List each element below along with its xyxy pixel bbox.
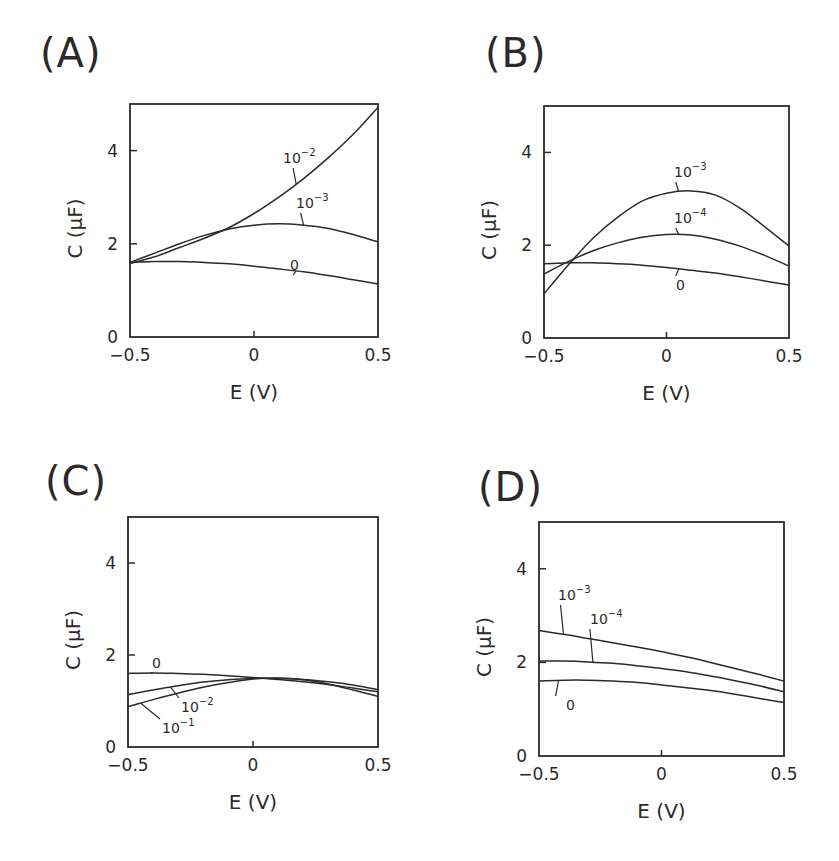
curve-10-neg3: [539, 631, 784, 682]
x-axis-title: E (V): [229, 790, 277, 814]
curve-label-leader: [676, 269, 679, 276]
curve-10-neg1: [128, 678, 378, 707]
curve-label-leader: [301, 213, 304, 225]
x-tick-label: 0.5: [364, 755, 391, 775]
plot-frame: [128, 517, 378, 747]
chart-panel-a: 024−0.500.5E (V)C (μF)10−210−30: [63, 104, 392, 404]
x-tick-label: 0.5: [775, 346, 802, 366]
y-tick-label: 0: [107, 327, 118, 347]
chart-panel-d: 024−0.500.5E (V)C (μF)10−310−40: [472, 522, 798, 823]
y-tick-label: 0: [105, 737, 116, 757]
x-axis-title: E (V): [230, 380, 278, 404]
y-tick-label: 2: [521, 235, 532, 255]
curve-label: 10−1: [162, 717, 195, 736]
curve-label: 0: [290, 257, 299, 273]
y-tick-label: 4: [521, 142, 532, 162]
chart-panel-c: 024−0.500.5E (V)C (μF)010−210−1: [61, 517, 392, 814]
curve-10-neg4: [539, 661, 784, 692]
y-axis-title: C (μF): [472, 617, 496, 677]
plot-frame: [539, 522, 784, 756]
curve-label-leader: [676, 182, 679, 192]
curve-label-leader: [561, 605, 564, 634]
curve-10-neg3: [130, 224, 378, 263]
curve-10-neg2: [130, 107, 378, 263]
x-tick-label: 0: [661, 346, 672, 366]
y-tick-label: 2: [516, 652, 527, 672]
curve-label-leader: [293, 168, 296, 184]
curve-label-leader: [141, 703, 161, 719]
curve-label: 10−4: [590, 608, 623, 627]
x-tick-label: −0.5: [109, 345, 150, 365]
curve-label: 10−3: [558, 584, 591, 603]
plot-frame: [130, 104, 378, 337]
y-tick-label: 2: [107, 234, 118, 254]
curve-0: [128, 673, 378, 692]
x-axis-title: E (V): [642, 381, 690, 405]
chart-panel-b: 024−0.500.5E (V)C (μF)10−310−40: [477, 106, 803, 405]
x-tick-label: −0.5: [518, 764, 559, 784]
y-tick-label: 4: [107, 141, 118, 161]
curve-label: 0: [566, 697, 575, 713]
x-tick-label: 0: [249, 345, 260, 365]
curve-label: 10−2: [181, 696, 214, 715]
y-axis-title: C (μF): [61, 610, 85, 670]
curve-label-leader: [590, 629, 593, 662]
y-tick-label: 4: [105, 553, 116, 573]
y-tick-label: 0: [521, 328, 532, 348]
curve-label: 10−3: [674, 161, 707, 180]
figure-canvas: 024−0.500.5E (V)C (μF)10−210−30 024−0.50…: [0, 0, 839, 861]
curve-label: 10−3: [296, 192, 329, 211]
y-axis-title: C (μF): [63, 198, 87, 258]
x-tick-label: 0.5: [364, 345, 391, 365]
x-axis-title: E (V): [637, 799, 685, 823]
x-tick-label: −0.5: [107, 755, 148, 775]
x-tick-label: 0: [656, 764, 667, 784]
y-axis-title: C (μF): [477, 200, 501, 260]
y-tick-label: 0: [516, 746, 527, 766]
curve-0: [130, 261, 378, 283]
x-tick-label: 0.5: [770, 764, 797, 784]
curve-label: 10−2: [283, 147, 316, 166]
curve-label: 0: [152, 655, 161, 671]
curve-label: 10−4: [674, 207, 707, 226]
x-tick-label: −0.5: [523, 346, 564, 366]
plot-frame: [544, 106, 789, 338]
y-tick-label: 4: [516, 559, 527, 579]
curve-label: 0: [676, 277, 685, 293]
curve-0: [544, 263, 789, 285]
curve-label-leader: [556, 680, 559, 696]
y-tick-label: 2: [105, 645, 116, 665]
x-tick-label: 0: [248, 755, 259, 775]
